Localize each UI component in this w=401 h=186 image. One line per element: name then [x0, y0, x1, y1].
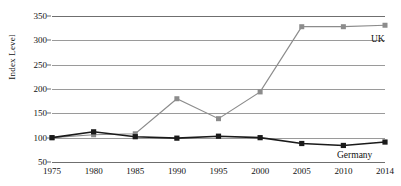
data-point-marker [258, 135, 263, 140]
data-point-marker [216, 134, 221, 139]
y-tick-label: 100 [21, 133, 47, 142]
plot-area: 50100150200250300350 1975198019851990199… [52, 16, 385, 162]
x-tick-label: 2005 [293, 167, 311, 176]
y-tick-mark [47, 64, 51, 65]
y-tick-label: 300 [21, 36, 47, 45]
data-point-marker [91, 129, 96, 134]
data-point-marker [382, 139, 387, 144]
y-tick-label: 250 [21, 60, 47, 69]
data-point-marker [383, 23, 388, 28]
x-tick-label: 1995 [210, 167, 228, 176]
data-point-marker [216, 116, 221, 121]
data-point-marker [174, 96, 179, 101]
data-point-marker [49, 135, 54, 140]
y-tick-label: 150 [21, 109, 47, 118]
y-axis-title: Index Level [7, 17, 17, 97]
data-point-marker [341, 143, 346, 148]
data-point-marker [299, 141, 304, 146]
data-point-marker [174, 136, 179, 141]
x-tick-label: 2014 [376, 167, 394, 176]
y-tick-mark [47, 113, 51, 114]
y-tick-mark [47, 89, 51, 90]
y-tick-label: 200 [21, 85, 47, 94]
y-tick-mark [47, 16, 51, 17]
gridline [52, 162, 385, 163]
y-tick-mark [47, 40, 51, 41]
data-point-marker [341, 24, 346, 29]
x-tick-label: 2010 [334, 167, 352, 176]
data-point-marker [299, 24, 304, 29]
y-tick-label: 350 [21, 12, 47, 21]
x-tick-label: 1985 [126, 167, 144, 176]
x-tick-label: 1975 [43, 167, 61, 176]
series-label-germany: Germany [337, 151, 372, 161]
x-tick-label: 1990 [168, 167, 186, 176]
series-label-uk: UK [371, 35, 385, 45]
x-tick-label: 2000 [251, 167, 269, 176]
y-tick-mark [47, 162, 51, 163]
data-point-marker [133, 134, 138, 139]
x-tick-label: 1980 [85, 167, 103, 176]
data-point-marker [258, 89, 263, 94]
series-layer [52, 16, 385, 162]
line-chart: Index Level 50100150200250300350 1975198… [0, 0, 401, 186]
